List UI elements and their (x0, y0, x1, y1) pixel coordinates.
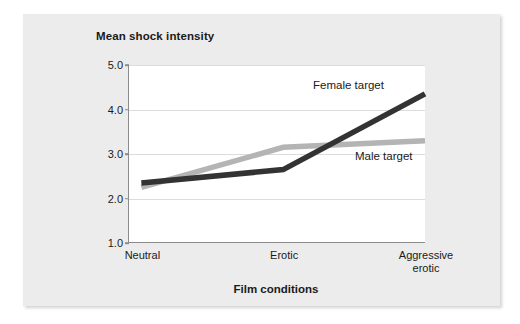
y-tick-label: 2.0 (108, 193, 123, 205)
figure-container: Mean shock intensity 1.02.03.04.05.0Neut… (0, 0, 520, 324)
x-tick-label: Aggressive erotic (399, 249, 453, 275)
x-tick-label: Erotic (270, 249, 298, 262)
x-axis-title: Film conditions (234, 283, 319, 295)
series-label-male-target: Male target (355, 150, 413, 162)
gridline (129, 65, 425, 66)
y-tick-label: 3.0 (108, 148, 123, 160)
gridline (129, 110, 425, 111)
y-tick-mark (125, 64, 129, 66)
y-tick-mark (125, 242, 129, 244)
y-tick-mark (125, 109, 129, 111)
y-tick-label: 5.0 (108, 59, 123, 71)
y-tick-mark (125, 153, 129, 155)
y-tick-label: 4.0 (108, 104, 123, 116)
x-tick-label: Neutral (125, 249, 160, 262)
gridline (129, 199, 425, 200)
y-tick-label: 1.0 (108, 237, 123, 249)
series-label-female-target: Female target (313, 79, 384, 91)
y-axis-title: Mean shock intensity (96, 30, 214, 42)
y-tick-mark (125, 198, 129, 200)
